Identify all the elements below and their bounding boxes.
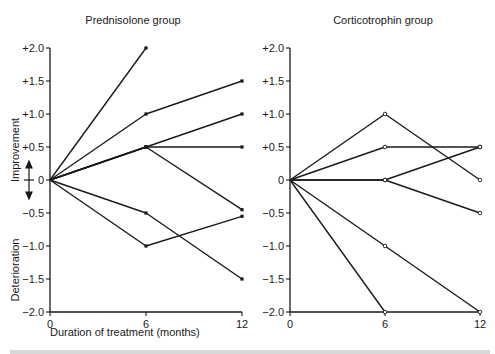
data-point-marker <box>240 277 243 280</box>
data-point-marker <box>478 211 482 215</box>
right-y-tick-label: +1.0 <box>262 108 284 120</box>
right-series-line <box>290 178 482 215</box>
data-point-marker <box>240 215 243 218</box>
data-point-marker <box>144 112 147 115</box>
figure-caption-fragment <box>10 350 490 354</box>
right-chart-axes: +2.0+1.5+1.0+0.50−0.5−1.0−1.5−2.00612 <box>262 42 486 330</box>
data-point-marker <box>383 145 387 149</box>
data-point-marker <box>144 211 147 214</box>
right-series-line <box>290 145 482 180</box>
right-y-tick-label: −0.5 <box>262 207 284 219</box>
left-y-tick-label: −1.5 <box>22 273 44 285</box>
data-point-marker <box>240 112 243 115</box>
right-x-tick-label: 0 <box>287 318 293 330</box>
left-series-line <box>50 79 244 180</box>
right-y-tick-label: +2.0 <box>262 42 284 54</box>
x-axis-title: Duration of treatment (months) <box>50 326 200 338</box>
left-y-tick-label: −2.0 <box>22 306 44 318</box>
y-axis-label-improvement: Improvement <box>9 118 21 182</box>
data-point-marker <box>144 46 147 49</box>
left-y-tick-label: +0.5 <box>22 141 44 153</box>
left-y-tick-label: −1.0 <box>22 240 44 252</box>
right-series-line <box>290 145 482 182</box>
left-y-tick-label: +1.5 <box>22 75 44 87</box>
double-arrow-icon <box>24 161 34 199</box>
right-y-tick-label: −1.0 <box>262 240 284 252</box>
data-point-marker <box>383 244 387 248</box>
data-point-marker <box>478 310 482 314</box>
left-y-tick-label: +2.0 <box>22 42 44 54</box>
left-y-tick-label: −0.5 <box>22 207 44 219</box>
data-point-marker <box>240 145 243 148</box>
right-y-tick-label: −1.5 <box>262 273 284 285</box>
data-point-marker <box>383 178 387 182</box>
chart-figure: Prednisolone group Corticotrophin group … <box>0 0 495 354</box>
right-series-line <box>290 180 387 314</box>
data-point-marker <box>144 145 147 148</box>
data-point-marker <box>383 310 387 314</box>
data-point-marker <box>240 208 243 211</box>
right-y-tick-label: +0.5 <box>262 141 284 153</box>
right-chart-plot-area <box>290 112 482 314</box>
left-chart-title: Prednisolone group <box>85 14 180 26</box>
right-y-tick-label: −2.0 <box>262 306 284 318</box>
data-point-marker <box>240 79 243 82</box>
left-series-line <box>50 145 244 180</box>
left-chart-axes: +2.0+1.5+1.0+0.50−0.5−1.0−1.5−2.00612 <box>22 42 248 330</box>
right-x-tick-label: 6 <box>382 318 388 330</box>
right-y-tick-label: 0 <box>278 174 284 186</box>
right-chart-title: Corticotrophin group <box>333 14 433 26</box>
right-y-tick-label: +1.5 <box>262 75 284 87</box>
left-chart-plot-area <box>50 46 244 280</box>
left-series-line <box>50 46 148 180</box>
right-x-tick-label: 12 <box>474 318 486 330</box>
data-point-marker <box>478 178 482 182</box>
y-axis-label-deterioration: Deterioration <box>9 239 21 302</box>
left-series-line <box>50 180 244 281</box>
left-y-tick-label: +1.0 <box>22 108 44 120</box>
data-point-marker <box>383 112 387 116</box>
left-y-tick-label: 0 <box>38 174 44 186</box>
left-series-line <box>50 145 244 211</box>
data-point-marker <box>144 244 147 247</box>
left-x-tick-label: 12 <box>236 318 248 330</box>
right-series-line <box>290 180 482 314</box>
data-point-marker <box>478 145 482 149</box>
